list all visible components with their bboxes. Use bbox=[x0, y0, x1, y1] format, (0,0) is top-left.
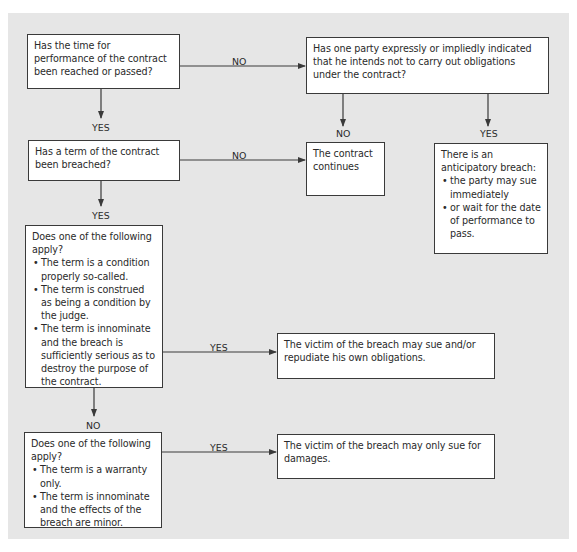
edge-label-time-no: NO bbox=[232, 56, 246, 67]
edge-label-warranty-yes: YES bbox=[210, 442, 228, 453]
node-heading: Does one of the following apply? bbox=[31, 437, 155, 463]
node-sue-repudiate: The victim of the breach may sue and/or … bbox=[277, 333, 495, 379]
bullet-item: the party may sue immediately bbox=[441, 174, 541, 200]
node-contract-continues: The contract continues bbox=[306, 142, 385, 196]
node-heading: There is an anticipatory breach: bbox=[441, 148, 541, 174]
edge-label-time-yes: YES bbox=[92, 122, 110, 133]
node-text: Has a term of the contract been breached… bbox=[35, 145, 173, 171]
edge-label-indicated-yes: YES bbox=[480, 128, 498, 139]
bullet-item: The term is innominate and the breach is… bbox=[32, 322, 156, 388]
edge-label-breached-yes: YES bbox=[92, 210, 110, 221]
bullet-item: The term is a condition properly so-call… bbox=[32, 256, 156, 282]
node-text: Has the time for performance of the cont… bbox=[34, 39, 173, 79]
edge-label-condition-no: NO bbox=[86, 420, 100, 431]
node-anticipatory-breach: There is an anticipatory breach: the par… bbox=[434, 143, 548, 254]
bullet-item: The term is a warranty only. bbox=[31, 463, 155, 489]
node-text: Has one party expressly or impliedly ind… bbox=[313, 42, 542, 82]
node-bullets: The term is a condition properly so-call… bbox=[32, 256, 156, 388]
bullet-item: The term is construed as being a conditi… bbox=[32, 283, 156, 323]
node-warranty-test: Does one of the following apply? The ter… bbox=[24, 432, 162, 528]
node-heading: Does one of the following apply? bbox=[32, 230, 156, 256]
bullet-item: or wait for the date of performance to p… bbox=[441, 201, 541, 241]
node-term-breached: Has a term of the contract been breached… bbox=[28, 140, 180, 181]
node-text: The victim of the breach may sue and/or … bbox=[284, 338, 488, 364]
node-time-reached: Has the time for performance of the cont… bbox=[27, 34, 180, 89]
edge-label-indicated-no: NO bbox=[336, 128, 350, 139]
bullet-item: The term is innominate and the effects o… bbox=[31, 490, 155, 530]
edge-label-condition-yes: YES bbox=[210, 342, 228, 353]
node-bullets: the party may sue immediately or wait fo… bbox=[441, 174, 541, 240]
node-sue-damages: The victim of the breach may only sue fo… bbox=[277, 434, 495, 479]
node-bullets: The term is a warranty only. The term is… bbox=[31, 463, 155, 529]
node-text: The contract continues bbox=[313, 147, 378, 173]
node-condition-test: Does one of the following apply? The ter… bbox=[25, 225, 163, 388]
edge-label-breached-no: NO bbox=[232, 150, 246, 161]
node-text: The victim of the breach may only sue fo… bbox=[284, 439, 488, 465]
node-party-indicated: Has one party expressly or impliedly ind… bbox=[306, 37, 549, 94]
